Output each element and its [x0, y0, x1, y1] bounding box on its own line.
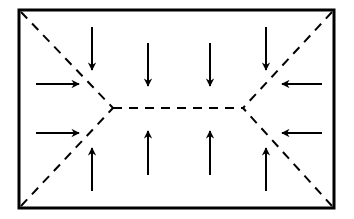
roof-ridge-diagram — [0, 0, 354, 219]
diagonal-top-right-dashed-line — [243, 12, 332, 108]
outer-frame — [19, 10, 334, 208]
diagonal-bottom-left-dashed-line — [21, 108, 113, 206]
dashed-ridge-lines — [21, 12, 332, 206]
diagonal-top-left-dashed-line — [21, 12, 113, 108]
diagonal-bottom-right-dashed-line — [243, 108, 332, 206]
